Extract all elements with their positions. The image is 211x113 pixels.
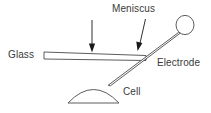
arrow-to-glass-icon [89, 20, 95, 53]
electrode-label: Electrode [157, 57, 200, 68]
arrow-to-meniscus-icon [136, 19, 145, 51]
electrode-barrel-icon [176, 15, 194, 34]
glass-label: Glass [8, 49, 34, 60]
meniscus-label: Meniscus [112, 3, 155, 14]
diagram-figure: Glass Meniscus Electrode Cell [0, 0, 211, 113]
glass-slide-shape [44, 52, 146, 61]
cell-dome-shape [68, 90, 119, 104]
cell-label: Cell [123, 86, 141, 97]
